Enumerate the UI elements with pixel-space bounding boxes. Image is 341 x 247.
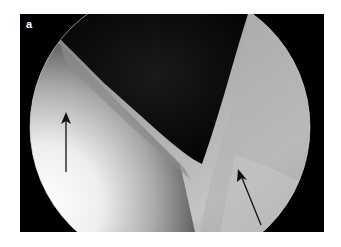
panel-label: a (26, 18, 32, 30)
endoscopic-scene (20, 14, 324, 232)
endoscopic-image: a (20, 14, 324, 232)
